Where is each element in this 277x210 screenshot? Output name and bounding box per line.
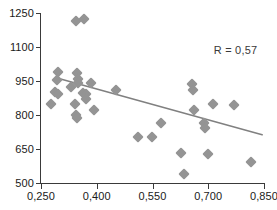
x-tick-label: 0,400 (73, 191, 121, 202)
data-point (156, 117, 167, 128)
x-tick-label: 0,250 (17, 191, 65, 202)
data-point (228, 99, 239, 110)
data-point (208, 98, 219, 109)
x-tick-label: 0,700 (184, 191, 232, 202)
y-tick-label: 650 (0, 144, 34, 155)
y-tick-label: 950 (0, 76, 34, 87)
x-tick (97, 184, 98, 189)
data-point (110, 84, 121, 95)
data-point (175, 147, 186, 158)
plot-area (41, 13, 264, 183)
x-tick (153, 184, 154, 189)
data-point (78, 14, 89, 25)
data-point (203, 148, 214, 159)
x-tick (264, 184, 265, 189)
y-tick-label: 1100 (0, 42, 34, 53)
data-point (245, 156, 256, 167)
scatter-chart: 50065080095011001250 0,2500,4000,5500,70… (0, 0, 277, 210)
y-tick-label: 1250 (0, 8, 34, 19)
x-tick (208, 184, 209, 189)
y-tick-label: 500 (0, 178, 34, 189)
data-point (146, 131, 157, 142)
data-point (132, 131, 143, 142)
x-tick (41, 184, 42, 189)
data-point (88, 105, 99, 116)
data-point (45, 98, 56, 109)
y-tick-label: 800 (0, 110, 34, 121)
data-point (178, 168, 189, 179)
correlation-annotation: R = 0,57 (214, 44, 258, 56)
data-point (86, 77, 97, 88)
data-point (51, 74, 62, 85)
x-tick-label: 0,550 (129, 191, 177, 202)
x-tick-label: 0,850 (240, 191, 277, 202)
data-point (69, 98, 80, 109)
data-point (189, 105, 200, 116)
